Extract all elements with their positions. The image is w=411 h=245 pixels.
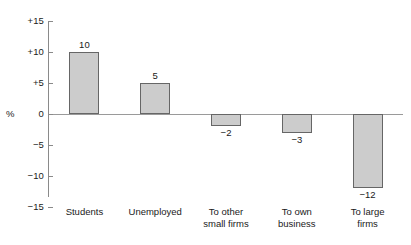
bar-chart: +15+10+50−5−10−15 % 10Students5Unemploye… <box>0 0 411 245</box>
bar <box>353 114 383 188</box>
y-tick-label-text: +10 <box>0 47 44 57</box>
y-tick-label-text: +5 <box>0 78 44 88</box>
y-tick-label-text: −15 <box>0 202 44 212</box>
y-tick-label-text: +15 <box>0 16 44 26</box>
y-tick-label: +5 <box>0 78 44 88</box>
x-axis-category-label-line1: To other <box>186 206 266 218</box>
x-axis-category-label: To largefirms <box>328 206 408 229</box>
bar <box>282 114 312 133</box>
x-axis-category-label-line2: business <box>257 218 337 230</box>
y-axis-line <box>48 21 49 197</box>
bar <box>69 52 99 114</box>
bar-value-label: −2 <box>196 127 256 138</box>
y-tick-label: −5 <box>0 140 44 150</box>
y-tick-mark <box>48 114 53 115</box>
bar-value-label: −12 <box>338 189 398 200</box>
y-tick-mark <box>48 52 53 53</box>
y-tick-label: −15 <box>0 202 44 212</box>
y-tick-label: +10 <box>0 47 44 57</box>
x-axis-category-label-line1: To large <box>328 206 408 218</box>
x-axis-category-label-line1: Students <box>44 206 124 218</box>
x-axis-category-label-line1: Unemployed <box>115 206 195 218</box>
y-tick-label-text: −5 <box>0 140 44 150</box>
bar-value-label: −3 <box>267 134 327 145</box>
cropped-title-strip <box>0 0 411 5</box>
x-axis-category-label-line2: firms <box>328 218 408 230</box>
bar <box>211 114 241 126</box>
x-axis-category-label-line2: small firms <box>186 218 266 230</box>
y-tick-mark <box>48 176 53 177</box>
x-axis-category-label: To ownbusiness <box>257 206 337 229</box>
y-tick-mark <box>48 145 53 146</box>
x-axis-category-label: To othersmall firms <box>186 206 266 229</box>
y-tick-label: −10 <box>0 171 44 181</box>
y-tick-mark <box>48 83 53 84</box>
y-tick-label-text: −10 <box>0 171 44 181</box>
bar-value-label: 5 <box>125 70 185 81</box>
x-axis-category-label: Students <box>44 206 124 218</box>
y-tick-mark <box>48 21 53 22</box>
y-axis-unit-label: % <box>6 109 14 119</box>
y-tick-label: +15 <box>0 16 44 26</box>
bar <box>140 83 170 114</box>
x-axis-category-label: Unemployed <box>115 206 195 218</box>
x-axis-category-label-line1: To own <box>257 206 337 218</box>
bar-value-label: 10 <box>54 39 114 50</box>
